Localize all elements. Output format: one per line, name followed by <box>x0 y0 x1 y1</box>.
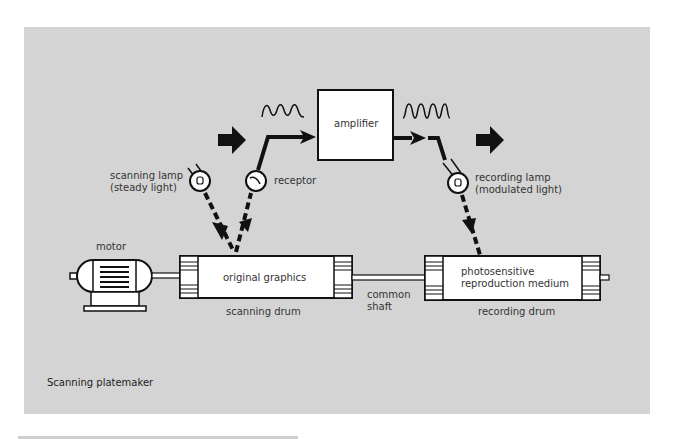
sine-wave-icon <box>262 105 304 117</box>
common-shaft-label-line2: shaft <box>367 301 411 313</box>
recording-drum-label: recording drum <box>478 306 555 318</box>
scanning-lamp-label-line2: (steady light) <box>110 182 183 194</box>
square-wave-icon <box>403 104 450 118</box>
amplifier-label: amplifier <box>334 118 378 130</box>
arrow-right-icon <box>476 126 504 154</box>
recording-lamp-label: recording lamp (modulated light) <box>475 172 562 196</box>
reproduction-medium-label-line1: photosensitive <box>461 266 569 278</box>
common-shaft-label-line1: common <box>367 289 411 301</box>
scanning-drum-label: scanning drum <box>226 306 301 318</box>
scanning-lamp-label-line1: scanning lamp <box>110 170 183 182</box>
reproduction-medium-label-line2: reproduction medium <box>461 278 569 290</box>
scanning-platemaker-diagram <box>0 0 678 439</box>
original-graphics-label: original graphics <box>223 272 306 284</box>
recording-lamp-label-line2: (modulated light) <box>475 184 562 196</box>
motor-label: motor <box>96 241 126 253</box>
arrow-right-icon <box>218 126 246 154</box>
common-shaft-label: common shaft <box>367 289 411 313</box>
recording-lamp-label-line1: recording lamp <box>475 172 562 184</box>
receptor-icon <box>246 171 266 191</box>
receptor-label: receptor <box>274 175 316 187</box>
figure-caption: Scanning platemaker <box>47 377 153 388</box>
motor-icon <box>70 260 152 311</box>
reproduction-medium-label: photosensitive reproduction medium <box>461 266 569 290</box>
recording-lamp-icon <box>443 159 468 193</box>
scanning-lamp-icon <box>188 164 210 191</box>
scanning-lamp-label: scanning lamp (steady light) <box>110 170 183 194</box>
